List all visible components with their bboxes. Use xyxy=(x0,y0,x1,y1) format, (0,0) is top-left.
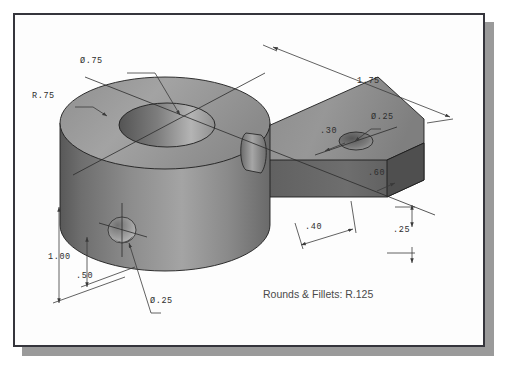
dim-hole-height-50: .50 xyxy=(76,271,93,281)
dim-overall-length: 1.75 xyxy=(357,76,380,86)
isometric-part-drawing: Ø.75 R.75 1.75 Ø.25 .30 .60 .40 .25 1.00… xyxy=(15,15,483,345)
dim-arm-width-60: .60 xyxy=(368,168,385,178)
extline-40-left xyxy=(295,223,303,249)
dim-side-hole-diameter: Ø.25 xyxy=(150,296,173,306)
dim-boss-radius: R.75 xyxy=(32,91,55,101)
drawing-sheet: Ø.75 R.75 1.75 Ø.25 .30 .60 .40 .25 1.00… xyxy=(13,13,485,347)
dim-arm-hole-diameter: Ø.25 xyxy=(371,112,394,122)
dim-arm-thickness-25: .25 xyxy=(393,225,410,235)
dim-hole-offset-30: .30 xyxy=(320,126,337,136)
dim-arm-end-distance-40: .40 xyxy=(305,222,322,232)
extline-40-right xyxy=(351,201,356,233)
fillet-column xyxy=(241,133,267,173)
dim-overall-height-100: 1.00 xyxy=(48,252,71,262)
extline-length-right xyxy=(427,119,453,123)
dim-bore-diameter: Ø.75 xyxy=(80,56,103,66)
rounds-and-fillets-note: Rounds & Fillets: R.125 xyxy=(263,288,373,300)
screenshot-root: Ø.75 R.75 1.75 Ø.25 .30 .60 .40 .25 1.00… xyxy=(0,0,511,376)
